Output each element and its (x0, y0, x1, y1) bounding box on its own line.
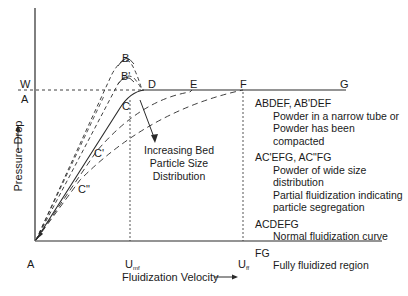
curve-acdefg (36, 90, 144, 240)
legend-desc: Fully fluidized region (273, 259, 408, 272)
x-axis-title: Fluidization Velocity (122, 271, 219, 283)
legend-desc: Partial fluidization indicating (273, 189, 408, 202)
origin-arrow-icon (37, 231, 43, 239)
label-point-e: E (190, 78, 197, 90)
arrowhead-icon (151, 134, 158, 143)
tick-umf-base: U (125, 258, 133, 270)
label-a-level: A (21, 93, 28, 105)
label-point-cdouble: C" (78, 183, 90, 195)
legend-group-acdefg: ACDEFG Normal fluidization curve (255, 218, 408, 243)
curve-abdef (36, 61, 142, 241)
legend: ABDEF, AB'DEF Powder in a narrow tube or… (255, 97, 408, 276)
tick-uff: Uff (238, 258, 249, 274)
label-w: W (20, 78, 30, 90)
label-point-b: B (122, 52, 129, 64)
legend-key: FG (255, 247, 408, 260)
label-point-cprime: C' (94, 147, 104, 159)
annotation-line-2: Particle Size (134, 157, 224, 170)
legend-group-abdef: ABDEF, AB'DEF Powder in a narrow tube or… (255, 97, 408, 147)
tick-uff-sub: ff (246, 265, 249, 271)
legend-desc: Normal fluidization curve (273, 230, 408, 243)
y-axis-title: Pressure Drop (12, 116, 24, 196)
legend-group-acefg: AC'EFG, AC"FG Powder of wide size distri… (255, 151, 408, 214)
label-point-c: C (122, 100, 130, 112)
annotation-line-3: Distribution (134, 170, 224, 183)
label-point-bprime: B' (121, 70, 130, 82)
label-point-d: D (148, 78, 156, 90)
tick-uff-base: U (238, 258, 246, 270)
increasing-size-arrow (140, 100, 155, 140)
label-point-g: G (340, 78, 349, 90)
label-point-f: F (240, 78, 247, 90)
legend-key: ABDEF, AB'DEF (255, 97, 408, 110)
legend-desc: Powder in a narrow tube or (273, 110, 408, 123)
legend-desc: Powder of wide size distribution (273, 164, 408, 189)
legend-desc: particle segregation (273, 201, 408, 214)
curve-steep-dashed (36, 96, 104, 240)
increasing-size-annotation: Increasing Bed Particle Size Distributio… (134, 144, 224, 183)
label-origin-a: A (27, 258, 34, 270)
annotation-line-1: Increasing Bed (134, 144, 224, 157)
legend-key: AC'EFG, AC"FG (255, 151, 408, 164)
x-arrowhead-icon (232, 275, 238, 280)
legend-key: ACDEFG (255, 218, 408, 231)
legend-desc: Powder has been compacted (273, 122, 408, 147)
legend-group-fg: FG Fully fluidized region (255, 247, 408, 272)
